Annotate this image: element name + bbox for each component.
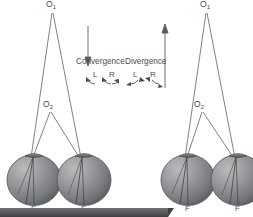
eye-rotation-arrows-right-panel bbox=[131, 80, 159, 84]
eye-rotation-arrowheads-right-panel bbox=[126, 77, 163, 88]
far-fixation-point-label-right-panel: O1 bbox=[200, 0, 210, 10]
sight-lines-far-right-panel bbox=[185, 13, 235, 158]
panel-right bbox=[126, 13, 253, 206]
vergence-direction-arrow-right-panel bbox=[162, 24, 168, 88]
fovea-label-right-panel-left-eye: F bbox=[185, 205, 190, 213]
sight-lines-near-left-panel bbox=[33, 112, 79, 157]
sight-lines-far-left-panel bbox=[31, 13, 81, 158]
eye-label-left-panel-r: R bbox=[109, 71, 115, 79]
eye-rotation-arrows-left-panel bbox=[88, 80, 111, 84]
far-fixation-point-label-left-panel: O1 bbox=[46, 0, 56, 10]
mode-label-convergence: Convergence bbox=[76, 58, 125, 66]
mode-label-divergence: Divergence bbox=[125, 58, 166, 66]
eye-vergence-figure: O1 O2 Convergence L R F F O1 O2 Divergen… bbox=[0, 0, 253, 217]
panel-left bbox=[7, 13, 119, 206]
figure-canvas bbox=[0, 0, 253, 217]
near-fixation-point-label-left-panel: O2 bbox=[43, 100, 53, 110]
eye-rotation-arrow-r-left-panel bbox=[112, 81, 119, 84]
eye-sphere-right-panel-left-eye bbox=[161, 154, 215, 206]
fovea-label-right-panel-right-eye: F bbox=[235, 205, 240, 213]
near-fixation-point-label-right-panel: O2 bbox=[194, 100, 204, 110]
bottom-accent-bar bbox=[0, 208, 168, 217]
sight-lines-near-right-panel bbox=[187, 112, 233, 157]
eye-label-right-panel-l: L bbox=[133, 71, 137, 79]
eye-label-right-panel-r: R bbox=[150, 71, 156, 79]
eye-sphere-right-panel-right-eye bbox=[211, 154, 253, 206]
eye-sphere-left-panel-left-eye bbox=[7, 154, 61, 206]
eye-sphere-left-panel-right-eye bbox=[57, 154, 111, 206]
eye-label-left-panel-l: L bbox=[93, 71, 97, 79]
